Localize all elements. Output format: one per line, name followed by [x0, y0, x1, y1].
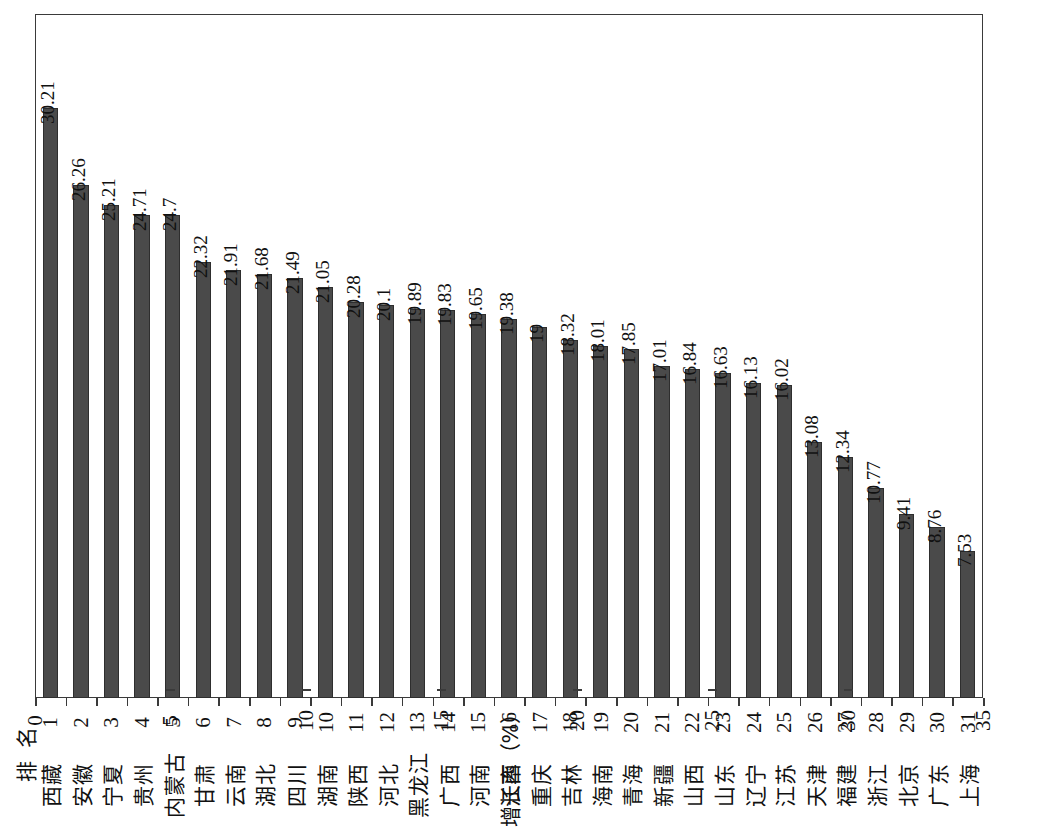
category-tick: [769, 698, 771, 706]
bar-slot: [868, 14, 883, 698]
bars-layer: 30.2126.2625.2124.7124.722.3221.9121.682…: [35, 14, 983, 698]
bar[interactable]: [410, 309, 425, 698]
bar-slot: [532, 14, 547, 698]
province-label: 湖南: [311, 740, 341, 830]
rank-label: 9: [282, 703, 307, 743]
category-tick: [96, 698, 98, 706]
category-tick: [188, 698, 190, 706]
bar-slot: [379, 14, 394, 698]
rank-label: 27: [833, 703, 858, 743]
bar-value-label: 16.13: [740, 356, 762, 399]
bar[interactable]: [654, 366, 669, 698]
province-label: 新疆: [647, 740, 677, 830]
bar[interactable]: [838, 457, 853, 698]
value-tick: [166, 689, 175, 691]
bar-value-label: 7.53: [954, 534, 976, 567]
bar-slot: [318, 14, 333, 698]
value-tick: [844, 689, 853, 691]
category-tick: [830, 698, 832, 706]
bar[interactable]: [287, 278, 302, 698]
bar[interactable]: [532, 327, 547, 698]
rank-label: 21: [649, 703, 674, 743]
category-tick: [647, 698, 649, 706]
bar[interactable]: [43, 108, 58, 698]
bar[interactable]: [257, 274, 272, 698]
bar-value-label: 19.65: [465, 287, 487, 330]
bar-slot: [899, 14, 914, 698]
bar-slot: [287, 14, 302, 698]
bar-value-label: 19: [526, 324, 548, 343]
bar-value-label: 26.26: [68, 158, 90, 201]
bar[interactable]: [501, 319, 516, 698]
bar-slot: [440, 14, 455, 698]
bar[interactable]: [777, 385, 792, 698]
rank-label: 31: [955, 703, 980, 743]
bar-slot: [196, 14, 211, 698]
province-label: 河南: [463, 740, 493, 830]
bar-value-label: 20.28: [343, 275, 365, 318]
category-tick: [616, 698, 618, 706]
bar[interactable]: [929, 527, 944, 698]
bar[interactable]: [440, 310, 455, 698]
province-label: 浙江: [861, 740, 891, 830]
category-tick: [952, 698, 954, 706]
bar-value-label: 17.85: [618, 322, 640, 365]
bar-value-label: 21.05: [312, 260, 334, 303]
province-label: 重庆: [525, 740, 555, 830]
bar[interactable]: [104, 205, 119, 698]
province-label: 吉林: [555, 740, 585, 830]
rank-label: 13: [405, 703, 430, 743]
rank-label: 19: [588, 703, 613, 743]
bar[interactable]: [318, 287, 333, 698]
bar[interactable]: [563, 340, 578, 698]
bar-slot: [165, 14, 180, 698]
bar[interactable]: [593, 346, 608, 698]
category-tick: [402, 698, 404, 706]
bar[interactable]: [379, 305, 394, 698]
category-tick: [677, 698, 679, 706]
bar-value-label: 19.38: [496, 293, 518, 336]
province-label: 贵州: [127, 740, 157, 830]
bar-slot: [501, 14, 516, 698]
province-label: 上海: [953, 740, 983, 830]
bar-value-label: 18.01: [587, 319, 609, 362]
bar-value-label: 13.08: [801, 416, 823, 459]
bar-value-label: 16.02: [771, 358, 793, 401]
bar-value-label: 18.32: [557, 313, 579, 356]
bar[interactable]: [196, 262, 211, 698]
value-tick: [708, 689, 717, 691]
bar[interactable]: [471, 314, 486, 698]
bar[interactable]: [165, 215, 180, 698]
bar[interactable]: [899, 514, 914, 698]
rank-label: 12: [374, 703, 399, 743]
category-tick: [738, 698, 740, 706]
bar[interactable]: [868, 488, 883, 698]
bar-slot: [777, 14, 792, 698]
bar[interactable]: [746, 383, 761, 698]
category-tick: [341, 698, 343, 706]
bar[interactable]: [73, 185, 88, 698]
bar-slot: [348, 14, 363, 698]
bar[interactable]: [226, 270, 241, 698]
rank-label: 24: [741, 703, 766, 743]
bar-value-label: 24.7: [159, 198, 181, 231]
bar[interactable]: [134, 215, 149, 698]
bar-slot: [226, 14, 241, 698]
bar[interactable]: [715, 373, 730, 698]
bar[interactable]: [624, 349, 639, 698]
bar[interactable]: [960, 551, 975, 698]
category-tick: [371, 698, 373, 706]
bar[interactable]: [348, 302, 363, 698]
bar-slot: [929, 14, 944, 698]
bar[interactable]: [685, 369, 700, 698]
bar-value-label: 25.21: [98, 179, 120, 222]
rank-label: 30: [925, 703, 950, 743]
bar-slot: [471, 14, 486, 698]
province-label: 江苏: [769, 740, 799, 830]
category-tick: [524, 698, 526, 706]
bar-slot: [960, 14, 975, 698]
bar[interactable]: [807, 442, 822, 698]
bar-slot: [257, 14, 272, 698]
province-label: 四川: [280, 740, 310, 830]
